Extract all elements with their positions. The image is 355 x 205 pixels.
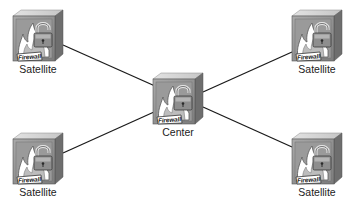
firewall-icon: Firewall [290, 8, 344, 64]
firewall-icon: Firewall [11, 131, 65, 187]
firewall-icon: Firewall [290, 131, 344, 187]
node-label: Satellite [270, 186, 355, 198]
firewall-node-satellite-bottom-right[interactable]: Firewall Satellite [290, 131, 344, 187]
firewall-icon: Firewall [151, 71, 205, 127]
firewall-node-satellite-bottom-left[interactable]: Firewall Satellite [11, 131, 65, 187]
firewall-node-center-hub[interactable]: Firewall Center [151, 71, 205, 127]
firewall-node-satellite-top-left[interactable]: Firewall Satellite [11, 8, 65, 64]
firewall-icon: Firewall [11, 8, 65, 64]
node-label: Satellite [0, 63, 85, 75]
node-label: Center [131, 126, 225, 138]
node-label: Satellite [270, 63, 355, 75]
firewall-node-satellite-top-right[interactable]: Firewall Satellite [290, 8, 344, 64]
node-label: Satellite [0, 186, 85, 198]
